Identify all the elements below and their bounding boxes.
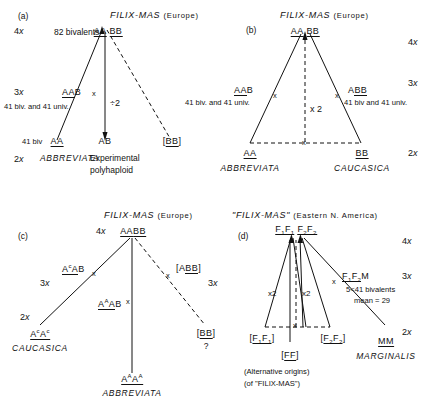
panel-c-cross-center: x xyxy=(126,298,130,307)
panel-c-mid-species: ABBREVIATA xyxy=(102,389,161,399)
panel-d-apex-genome: F1F1 F2F2 xyxy=(275,224,317,237)
panel-c-mid-hybrid-tail: B xyxy=(115,299,121,309)
panel-b-ploidy-4x: 4x xyxy=(408,37,418,47)
panel-a-left-genome-text: AA xyxy=(51,136,64,147)
panel-d-alt-left-close: ] xyxy=(272,333,275,343)
panel-c-ploidy-4x: 4x xyxy=(96,226,106,236)
panel-a-title: FILIX-MAS (Europe) xyxy=(110,10,199,21)
panel-d-right-hybrid-pair: F1F2 xyxy=(342,271,361,282)
panel-a-ploidy-4x: 4x xyxy=(14,26,24,36)
panel-c-mid-hybrid-sup: A xyxy=(104,298,108,304)
panel-b-cross-left: x xyxy=(273,92,277,101)
panel-a-right-bracket-close: ] xyxy=(178,136,181,146)
panel-a-apex-bb: BB xyxy=(109,26,122,37)
panel-d-right-hybrid-genome: F1F2M xyxy=(342,271,369,284)
panel-a-ploidy-2x-x: x xyxy=(19,154,24,164)
panel-b-cross-right: x xyxy=(335,92,339,101)
panel-c-right-query: ? xyxy=(204,342,209,352)
panel-a-apex-aa: AA xyxy=(94,26,107,37)
panel-d-alt-right-close: ] xyxy=(343,333,346,343)
panel-c-left-hybrid-tail: B xyxy=(78,264,84,274)
panel-b-title: FILIX-MAS (Europe) xyxy=(280,10,369,21)
panel-d-right-genome: MM xyxy=(378,336,394,346)
panel-c-left-hybrid-genome: AcAB xyxy=(62,263,85,274)
panel-b-left-hybrid-aa: AA xyxy=(234,85,247,96)
panel-c-ploidy-2x: 2x xyxy=(20,312,30,322)
panel-d-right-species: MARGINALIS xyxy=(356,352,415,362)
panel-b-right-species: CAUCASICA xyxy=(334,164,390,174)
panel-c-apex-bb: BB xyxy=(133,226,146,237)
panel-b-apex-aa: AA xyxy=(291,26,304,37)
panel-a-mid-left-genome: AAB xyxy=(62,87,81,97)
panel-c-left-genome: AcAc xyxy=(30,328,50,339)
panel-c-ploidy-3x-left: 3x xyxy=(40,278,50,288)
panel-b-left-genome: AA xyxy=(244,148,257,158)
panel-d-cross-right: x xyxy=(332,278,336,287)
panel-c-mid-genome-text: AAAA xyxy=(121,374,143,385)
panel-b-apex-genome: AA BB xyxy=(291,26,320,36)
panel-c-right-hybrid-bb: BB xyxy=(185,263,198,274)
panel-c-right-hybrid-close: ] xyxy=(198,263,201,273)
panel-b-left-hybrid-genome: AAB xyxy=(234,85,253,95)
panel-d: (d) "FILIX-MAS" (Eastern N. America) F1F… xyxy=(220,190,435,407)
panel-a-ploidy-3x-x: x xyxy=(19,87,24,97)
panel-a-cross-left: x xyxy=(92,90,96,99)
panel-b-ploidy-3x-x: x xyxy=(413,78,418,88)
panel-c-mid-genome: AAAA xyxy=(121,373,143,384)
panel-b-right-hybrid-note: 41 biv and 41 univ. xyxy=(344,99,407,108)
panel-b-left-hybrid-b: B xyxy=(247,85,253,95)
panel-a-right-genome: [BB] xyxy=(163,136,182,146)
panel-d-ploidy-3x: 3x xyxy=(402,271,412,281)
panel-a: (a) FILIX-MAS (Europe) 4x 82 bivalents A… xyxy=(0,0,220,190)
panel-d-apex-f2b-sub: 2 xyxy=(313,230,317,236)
panel-b-title-region: (Europe) xyxy=(334,11,369,20)
panel-c-mid-genome-sup1: A xyxy=(128,373,132,379)
panel-c-mid-genome-sup2: A xyxy=(138,373,142,379)
panel-c-title: FILIX-MAS (Europe) xyxy=(104,210,193,221)
panel-d-ff-close: ] xyxy=(296,350,299,360)
panel-d-apex-f2-pair: F2F2 xyxy=(297,224,316,235)
panel-c-mid-hybrid-genome: AAAB xyxy=(98,298,122,309)
panel-d-ff-genome: [FF] xyxy=(281,350,299,360)
panel-d-cross-center: x xyxy=(293,322,297,331)
panel-d-footnote-2: (of "FILIX-MAS") xyxy=(244,380,300,389)
panel-a-mid-caption-line1: Experimental xyxy=(90,154,140,164)
panel-a-title-text: FILIX-MAS xyxy=(110,10,160,20)
panel-b-ploidy-4x-x: x xyxy=(413,37,418,47)
panel-c-left-hybrid-ua: AcA xyxy=(62,264,78,275)
panel-c-cross-left: x xyxy=(92,270,96,279)
panel-d-title-region: (Eastern N. America) xyxy=(293,211,377,220)
panel-d-times2-left: x2 xyxy=(268,289,276,298)
panel-a-title-region: (Europe) xyxy=(164,11,199,20)
panel-b-left-genome-text: AA xyxy=(244,148,257,159)
panel-a-mid-genome: AB xyxy=(99,136,112,146)
panel-c-right-close: ] xyxy=(212,328,215,338)
panel-c-apex-aa: AA xyxy=(120,226,133,237)
panel-b-apex-bb: BB xyxy=(306,26,319,37)
panel-d-footnote-2-text: (of "FILIX-MAS") xyxy=(244,379,300,388)
panel-b-left-hybrid-note: 41 biv. and 41 univ. xyxy=(185,99,250,108)
panel-c-left-genome-text: AcAc xyxy=(30,329,50,340)
panel-d-right-note-line1: 5<41 bivalents xyxy=(346,286,395,295)
panel-d-ploidy-3x-x: x xyxy=(407,271,412,281)
panel-b-left-species: ABBREVIATA xyxy=(220,164,279,174)
panel-b-ploidy-2x-x: x xyxy=(413,148,418,158)
panel-c-mid-hybrid-ua: AAA xyxy=(98,299,115,310)
panel-a-left-genome: AA xyxy=(51,136,64,146)
panel-d-alt-left-pair: F1F1 xyxy=(252,333,271,344)
panel-d-times2-right: x2 xyxy=(302,289,310,298)
panel-d-alt-left-genome: [F1F1] xyxy=(249,333,274,346)
panel-d-ploidy-4x-x: x xyxy=(407,236,412,246)
panel-a-bivalents: 82 bivalents xyxy=(54,28,99,38)
panel-d-apex-f1-pair: F1F1 xyxy=(275,224,294,235)
panel-d-ploidy-2x: 2x xyxy=(402,327,412,337)
panel-c-apex-genome: AABB xyxy=(120,226,146,236)
panel-b-right-genome: BB xyxy=(356,148,369,158)
panel-d-footnote-1: (Alternative origins) xyxy=(244,368,309,377)
panel-b: (b) FILIX-MAS (Europe) AA BB 4x 3x AAB x… xyxy=(218,0,435,190)
panel-c-ploidy-3x-right: 3x xyxy=(208,278,218,288)
panel-b-right-hybrid-bb: BB xyxy=(354,85,367,96)
panel-d-right-note-line2: mean = 29 xyxy=(354,297,390,306)
panel-b-tag: (b) xyxy=(246,26,256,36)
panel-c-left-hybrid-sup: c xyxy=(68,263,71,269)
